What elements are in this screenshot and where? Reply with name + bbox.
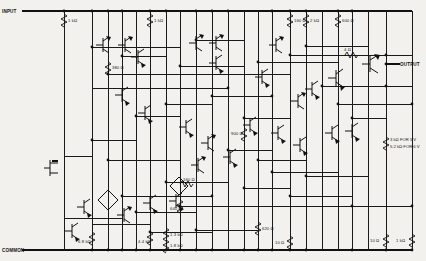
resistor-label-640: 640 Ω: [170, 206, 182, 211]
resistor-label-900: 900 Ω: [231, 131, 243, 136]
resistor-label-1k8: 1.8 kΩ: [170, 243, 183, 248]
resistor-label-160-top: 160 Ω: [294, 18, 306, 23]
resistor-label-1k3: 1.3 kΩ: [170, 232, 183, 237]
resistor-label-1k-b: 1 kΩ: [154, 18, 163, 23]
resistor-label-380: 380 Ω: [112, 65, 124, 70]
supply-note-line-2: 5.2 kΩ FOR 6 V: [390, 144, 420, 149]
resistor-label-10-a: 10 Ω: [275, 240, 284, 245]
resistor-label-1k-a: 1 kΩ: [68, 18, 77, 23]
input-terminal-label: INPUT: [2, 9, 17, 14]
resistor-label-4k4: 4.4 kΩ: [138, 239, 151, 244]
output-terminal-label: OUTPUT: [400, 62, 420, 67]
resistor-label-6k8: 6.8 kΩ: [78, 239, 91, 244]
schematic-canvas: INPUT OUTPUT COMMON 1 kΩ 1 kΩ 380 Ω 160 …: [0, 0, 426, 261]
resistor-label-600: 600 Ω: [342, 18, 354, 23]
resistor-label-10-b: 10 Ω: [370, 238, 379, 243]
resistor-label-1k-bot: 1 kΩ: [396, 238, 405, 243]
resistor-label-620: 620 Ω: [262, 226, 274, 231]
common-terminal-label: COMMON: [2, 248, 25, 253]
supply-note-line-1: 3 kΩ FOR 5 V: [390, 137, 416, 142]
circuit-schematic-diagram: INPUT OUTPUT COMMON 1 kΩ 1 kΩ 380 Ω 160 …: [0, 0, 426, 261]
resistor-label-160-mid: 160 Ω: [183, 177, 195, 182]
resistor-label-4ohm: 4 Ω: [344, 47, 351, 52]
resistor-label-2k: 2 kΩ: [310, 18, 319, 23]
